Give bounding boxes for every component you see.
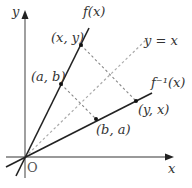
point-ba-label: (b, a) (96, 122, 130, 137)
x-axis-arrow-icon (165, 154, 174, 161)
f-curve-label: f(x) (82, 4, 105, 19)
y-axis-arrow-icon (22, 10, 29, 19)
connector-ab-ba (61, 84, 96, 119)
identity-line-label: y = x (143, 33, 179, 48)
point-xy-label: (x, y) (51, 30, 84, 45)
x-axis-label: x (168, 161, 176, 176)
f-inverse-curve-label: f⁻¹(x) (150, 75, 185, 90)
point-yx-label: (y, x) (138, 102, 169, 117)
y-axis-label: y (11, 4, 20, 19)
connector-xy-yx (81, 45, 136, 101)
origin-label: O (27, 160, 38, 175)
diagram-canvas: y x O f(x) f⁻¹(x) y = x (x, y) (a, b) (b… (0, 0, 192, 188)
f-curve (16, 28, 89, 176)
point-ab-label: (a, b) (31, 69, 65, 84)
point-ba (94, 117, 98, 121)
identity-line (25, 38, 148, 157)
